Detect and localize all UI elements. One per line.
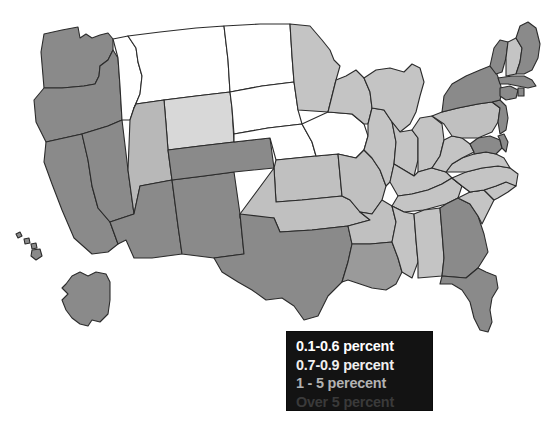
state-NM[interactable] [172, 172, 244, 258]
state-CT[interactable] [500, 86, 518, 100]
state-LA[interactable] [342, 242, 402, 290]
state-HI-1[interactable] [16, 232, 22, 238]
state-KS[interactable] [274, 154, 342, 202]
state-ND[interactable] [224, 24, 294, 92]
state-MD[interactable] [470, 136, 502, 154]
map-figure: 0.1-0.6 percent 0.7-0.9 percent 1 - 5 pe… [0, 0, 548, 428]
state-RI[interactable] [518, 88, 524, 96]
state-HI-2[interactable] [24, 238, 30, 244]
state-WY[interactable] [164, 92, 234, 150]
map-legend: 0.1-0.6 percent 0.7-0.9 percent 1 - 5 pe… [286, 331, 433, 411]
legend-item-3: Over 5 percent [296, 393, 432, 412]
legend-item-1: 0.7-0.9 percent [296, 356, 432, 375]
legend-item-2: 1 - 5 perecent [296, 374, 432, 393]
legend-item-0: 0.1-0.6 percent [296, 337, 432, 356]
us-choropleth-svg [0, 0, 548, 428]
state-FL[interactable] [440, 268, 498, 332]
state-HI-4[interactable] [31, 249, 42, 260]
state-VT[interactable] [490, 40, 508, 74]
state-AL[interactable] [414, 208, 444, 278]
state-MA[interactable] [498, 76, 536, 88]
state-HI-3[interactable] [31, 243, 37, 249]
state-AK[interactable] [62, 272, 110, 326]
